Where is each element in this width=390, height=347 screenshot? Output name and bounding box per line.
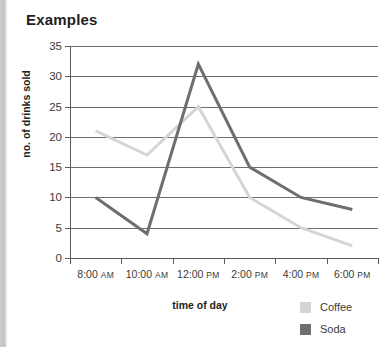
- legend: CoffeeSoda: [300, 296, 386, 340]
- legend-item-coffee[interactable]: Coffee: [300, 296, 386, 318]
- legend-swatch-coffee: [300, 302, 311, 313]
- legend-label: Coffee: [320, 301, 352, 313]
- legend-item-soda[interactable]: Soda: [300, 318, 386, 340]
- series-lines: [0, 0, 390, 347]
- line-chart-figure: Examples 05101520253035 no. of drinks so…: [0, 0, 390, 347]
- legend-swatch-soda: [300, 324, 311, 335]
- legend-label: Soda: [320, 323, 346, 335]
